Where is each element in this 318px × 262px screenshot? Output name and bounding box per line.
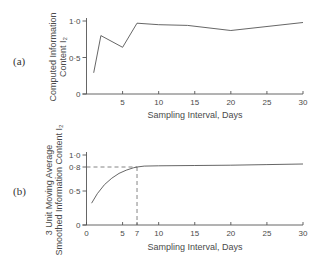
ticks-a: 5101520253000·51·0	[69, 17, 308, 107]
dashed-guide-7-days	[87, 167, 138, 225]
figure: (a) Computed Information Content I₂ 5101…	[0, 0, 318, 262]
data-series-b	[92, 164, 303, 203]
y-axis-label-a-line1: Computed Information	[48, 12, 58, 101]
panel-label-a: (a)	[13, 55, 26, 68]
x-tick-label: 25	[262, 98, 271, 107]
x-tick-label: 7	[135, 229, 140, 238]
x-tick-label: 10	[154, 229, 163, 238]
y-axis-label-b-line2: Smoothed Information Content I₂	[54, 124, 64, 256]
x-axis-label-a: Sampling Interval, Days	[147, 110, 243, 120]
y-axis-label-a: Computed Information Content I₂	[48, 12, 68, 101]
axes-a	[83, 18, 304, 94]
panel-label-b: (b)	[13, 185, 26, 198]
x-tick-label: 25	[262, 229, 271, 238]
y-tick-label: 1·0	[69, 151, 81, 160]
chart-canvas: (a) Computed Information Content I₂ 5101…	[0, 0, 318, 262]
x-tick-label: 15	[190, 98, 199, 107]
y-tick-label: 0	[76, 221, 81, 230]
y-axis-label-a-line2: Content I₂	[58, 36, 68, 77]
y-tick-label: 0·5	[69, 187, 81, 196]
axes-b	[83, 152, 304, 225]
x-axis-label-b: Sampling Interval, Days	[147, 242, 243, 252]
x-tick-label: 0	[84, 229, 89, 238]
x-tick-label: 20	[226, 229, 235, 238]
x-tick-label: 5	[120, 98, 125, 107]
x-tick-label: 10	[154, 98, 163, 107]
chart-panel-b: (b) 3 Unit Moving Average Smoothed Infor…	[13, 124, 308, 256]
y-tick-label: 0·5	[69, 54, 81, 63]
y-tick-label: 1·0	[69, 17, 81, 26]
chart-panel-a: (a) Computed Information Content I₂ 5101…	[13, 12, 308, 120]
x-tick-label: 20	[226, 98, 235, 107]
y-tick-label: 0·8	[69, 163, 81, 172]
y-axis-label-b-line1: 3 Unit Moving Average	[44, 145, 54, 235]
x-tick-label: 15	[190, 229, 199, 238]
x-tick-label: 30	[299, 98, 308, 107]
data-series-a	[94, 23, 303, 73]
x-tick-label: 30	[299, 229, 308, 238]
y-tick-label: 0	[76, 90, 81, 99]
x-tick-label: 5	[120, 229, 125, 238]
y-axis-label-b: 3 Unit Moving Average Smoothed Informati…	[44, 124, 64, 256]
